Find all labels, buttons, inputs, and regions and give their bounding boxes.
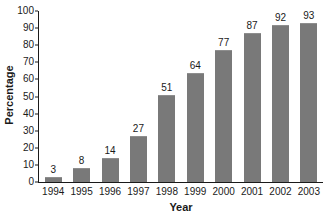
x-axis-title: Year xyxy=(39,201,323,213)
bar-value-label: 77 xyxy=(218,38,229,48)
y-axis-title-label: Percentage xyxy=(3,65,15,124)
x-tick-label: 1997 xyxy=(124,185,152,199)
bar-slot: 51 xyxy=(153,11,181,182)
x-tick-label: 1998 xyxy=(153,185,181,199)
bar-slot: 93 xyxy=(295,11,323,182)
bar-slot: 27 xyxy=(124,11,152,182)
x-axis-line xyxy=(38,182,323,183)
bar[interactable] xyxy=(300,23,317,182)
bar-slot: 3 xyxy=(39,11,67,182)
y-tick-label: 20 xyxy=(23,143,34,153)
bar-slot: 14 xyxy=(96,11,124,182)
bar-value-label: 3 xyxy=(50,165,56,175)
bar-chart: Percentage 0102030405060708090100 381427… xyxy=(0,0,331,219)
bar-slot: 87 xyxy=(238,11,266,182)
bar-slot: 92 xyxy=(266,11,294,182)
x-tick-label: 1994 xyxy=(39,185,67,199)
bar[interactable] xyxy=(158,95,175,182)
x-tick-label: 2000 xyxy=(209,185,237,199)
y-axis-title: Percentage xyxy=(2,8,16,182)
bar-value-label: 92 xyxy=(275,13,286,23)
bars-container: 381427516477879293 xyxy=(39,11,323,182)
bar[interactable] xyxy=(73,168,90,182)
bar[interactable] xyxy=(272,25,289,182)
y-tick-label: 30 xyxy=(23,126,34,136)
y-tick-label: 60 xyxy=(23,74,34,84)
y-axis-ticks: 0102030405060708090100 xyxy=(16,0,38,219)
bar-slot: 77 xyxy=(209,11,237,182)
bar[interactable] xyxy=(244,33,261,182)
bar-value-label: 8 xyxy=(79,156,85,166)
bar-value-label: 27 xyxy=(133,124,144,134)
bar-value-label: 14 xyxy=(104,146,115,156)
bar[interactable] xyxy=(215,50,232,182)
bar[interactable] xyxy=(130,136,147,182)
bar[interactable] xyxy=(187,73,204,182)
bar[interactable] xyxy=(102,158,119,182)
x-tick-label: 1999 xyxy=(181,185,209,199)
x-tick-label: 1996 xyxy=(96,185,124,199)
bar-slot: 8 xyxy=(67,11,95,182)
x-tick-label: 2002 xyxy=(266,185,294,199)
y-tick-label: 70 xyxy=(23,57,34,67)
x-tick-label: 1995 xyxy=(67,185,95,199)
x-tick-label: 2003 xyxy=(295,185,323,199)
y-tick-label: 40 xyxy=(23,109,34,119)
bar[interactable] xyxy=(45,177,62,182)
y-tick-label: 90 xyxy=(23,23,34,33)
bar-value-label: 93 xyxy=(303,11,314,21)
y-tick-label: 0 xyxy=(28,177,34,187)
y-tick-label: 80 xyxy=(23,40,34,50)
plot-area: 381427516477879293 xyxy=(39,11,323,182)
y-tick-label: 50 xyxy=(23,92,34,102)
bar-value-label: 51 xyxy=(161,83,172,93)
x-axis-ticks: 1994199519961997199819992000200120022003 xyxy=(39,185,323,199)
bar-value-label: 64 xyxy=(190,61,201,71)
y-tick-label: 10 xyxy=(23,160,34,170)
bar-slot: 64 xyxy=(181,11,209,182)
y-tick-label: 100 xyxy=(17,6,34,16)
bar-value-label: 87 xyxy=(246,21,257,31)
x-tick-label: 2001 xyxy=(238,185,266,199)
